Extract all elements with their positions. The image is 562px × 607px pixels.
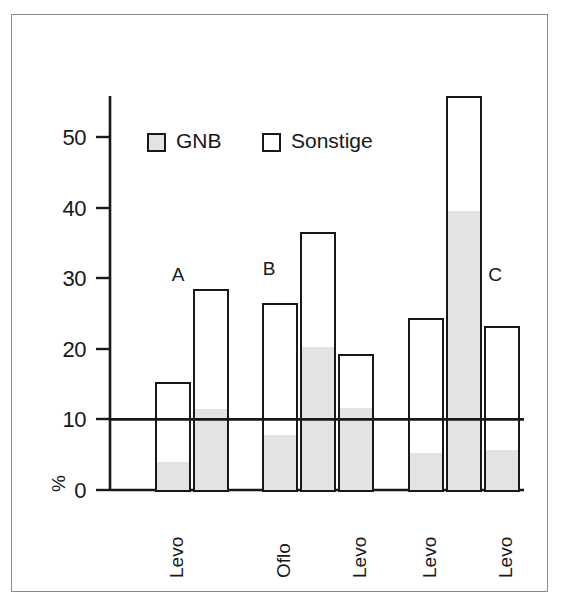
chart-figure: 50 40 30 20 10 0 % GNB Sonstige A B C [0, 0, 562, 607]
legend-label-gnb: GNB [176, 129, 222, 153]
group-label-b: B [249, 258, 289, 280]
x-tick-label-2: Levo [349, 537, 371, 578]
bar-b-oflo-gnb [264, 435, 296, 490]
bar-c-levo-first-total [408, 318, 444, 492]
y-tick-label-20: 20 [40, 337, 86, 363]
bar-b-levo-total [338, 354, 374, 492]
bar-a-levo-total [155, 382, 191, 492]
legend-swatch-gnb [147, 133, 166, 152]
bar-b-second-gnb [302, 347, 334, 490]
y-axis-label: % [48, 475, 70, 492]
x-tick-label-1: Oflo [273, 543, 295, 578]
legend-swatch-sonstige [262, 133, 281, 152]
bar-b-oflo-total [262, 303, 298, 492]
bar-b-second-total [300, 232, 336, 492]
y-tick-label-50: 50 [40, 125, 86, 151]
bar-c-second-total [446, 96, 482, 492]
x-tick-label-0: Levo [166, 537, 188, 578]
y-tick-label-30: 30 [40, 266, 86, 292]
x-tick-label-3: Levo [419, 537, 441, 578]
bar-b-levo-gnb [340, 408, 372, 490]
group-label-a: A [158, 264, 198, 286]
x-tick-label-4: Levo [495, 537, 517, 578]
legend-label-sonstige: Sonstige [291, 129, 373, 153]
bar-c-levo-first-gnb [410, 453, 442, 490]
y-tick-label-10: 10 [40, 407, 86, 433]
bar-c-levo-last-gnb [486, 450, 518, 490]
bar-a-second-gnb [195, 409, 227, 490]
bar-a-levo-gnb [157, 462, 189, 490]
y-tick-label-40: 40 [40, 196, 86, 222]
bar-c-second-gnb [448, 211, 480, 490]
bar-a-second-total [193, 289, 229, 492]
bar-c-levo-last-total [484, 326, 520, 492]
